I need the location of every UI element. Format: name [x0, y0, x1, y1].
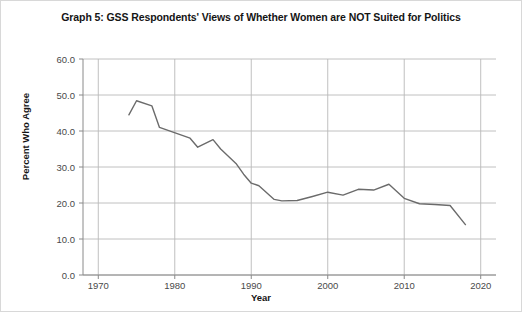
series-line	[129, 101, 466, 225]
gridlines	[83, 59, 496, 275]
chart-page: Graph 5: GSS Respondents' Views of Wheth…	[0, 0, 522, 312]
x-tick-label: 2000	[317, 280, 338, 291]
x-tick-label: 1990	[241, 280, 262, 291]
y-axis-ticks: 0.010.020.030.040.050.060.0	[57, 54, 84, 281]
y-tick-label: 30.0	[57, 162, 76, 173]
x-tick-label: 1970	[88, 280, 109, 291]
x-tick-label: 2010	[394, 280, 415, 291]
y-tick-label: 60.0	[57, 54, 76, 65]
x-tick-label: 1980	[164, 280, 185, 291]
x-tick-label: 2020	[470, 280, 491, 291]
y-tick-label: 50.0	[57, 90, 76, 101]
y-tick-label: 20.0	[57, 198, 76, 209]
y-tick-label: 40.0	[57, 126, 76, 137]
y-tick-label: 10.0	[57, 234, 76, 245]
line-chart-plot: 0.010.020.030.040.050.060.0 197019801990…	[1, 1, 522, 312]
x-axis-ticks: 197019801990200020102020	[88, 275, 492, 291]
y-tick-label: 0.0	[62, 270, 75, 281]
data-series	[129, 101, 466, 225]
